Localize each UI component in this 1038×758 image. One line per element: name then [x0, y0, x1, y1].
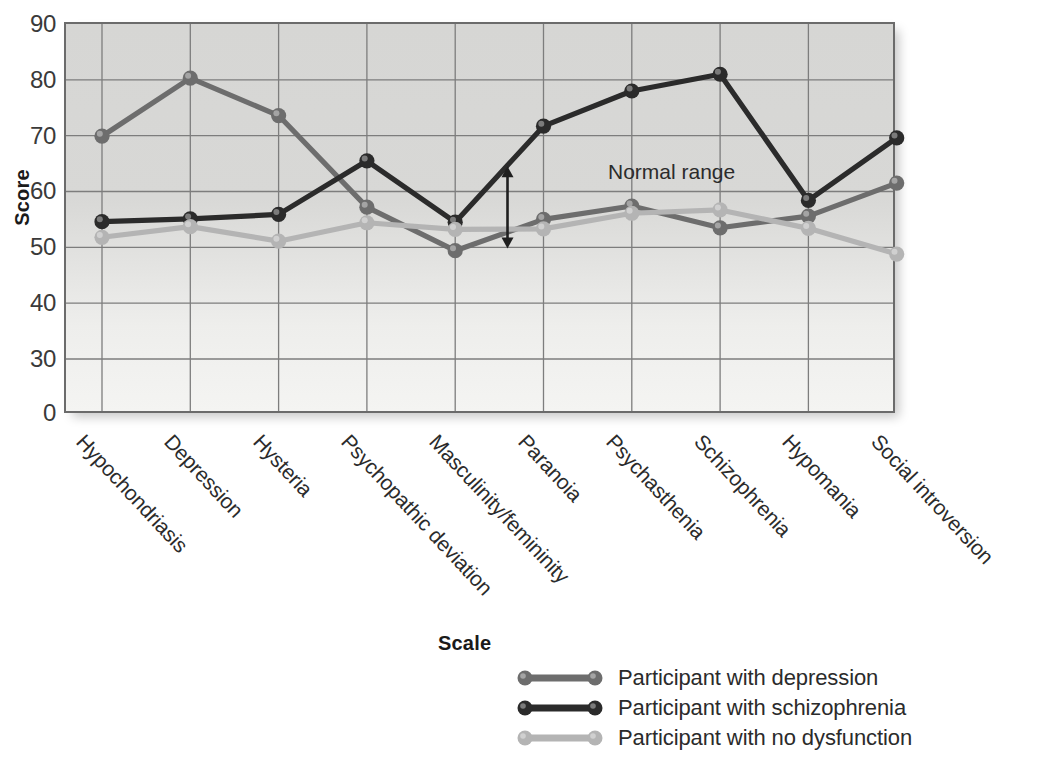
data-point-2-8	[801, 221, 816, 236]
data-point-2-3	[359, 215, 374, 230]
x-axis-tick-3: Psychopathic deviation	[336, 430, 497, 600]
legend-swatch-0	[516, 667, 604, 689]
plot-area	[64, 22, 895, 413]
data-point-highlight	[450, 224, 456, 230]
data-point-marker	[889, 176, 904, 191]
data-point-highlight	[892, 132, 898, 138]
x-axis-tick-6: Psychasthenia	[601, 430, 710, 544]
data-point-highlight	[450, 245, 456, 251]
data-point-marker	[624, 83, 639, 98]
data-point-highlight	[715, 69, 721, 75]
chart-figure: Score 030405060708090 HypochondriasisDep…	[0, 0, 1038, 758]
y-axis-tick-40: 40	[4, 289, 56, 317]
data-point-highlight	[627, 208, 633, 214]
data-point-highlight	[803, 211, 809, 217]
y-axis-tick-60: 60	[4, 177, 56, 205]
x-axis-tick-2: Hysteria	[248, 430, 317, 502]
data-point-highlight	[892, 178, 898, 184]
data-point-highlight	[273, 236, 279, 242]
x-axis-tick-9: Social introversion	[866, 430, 998, 569]
legend-swatch-2	[516, 727, 604, 749]
data-point-marker	[183, 71, 198, 86]
data-point-2-9	[889, 246, 904, 261]
series-line-1	[102, 74, 897, 222]
y-axis-tick-70: 70	[4, 122, 56, 150]
data-point-marker	[448, 243, 463, 258]
data-point-highlight	[273, 110, 279, 116]
data-point-1-0	[94, 214, 109, 229]
data-point-2-0	[94, 230, 109, 245]
data-point-marker	[359, 153, 374, 168]
data-point-marker	[183, 219, 198, 234]
data-point-marker	[624, 206, 639, 221]
data-point-marker	[359, 215, 374, 230]
data-point-2-4	[448, 222, 463, 237]
chart-canvas	[66, 24, 893, 411]
y-axis-tick-labels: 030405060708090	[0, 0, 56, 758]
data-point-highlight	[185, 73, 191, 79]
legend-item-1[interactable]: Participant with schizophrenia	[438, 693, 998, 723]
normal-range-annotation-label: Normal range	[608, 160, 735, 184]
data-point-1-3	[359, 153, 374, 168]
data-point-highlight	[273, 209, 279, 215]
data-point-marker	[94, 214, 109, 229]
data-point-1-9	[889, 130, 904, 145]
x-axis-tick-8: Hypomania	[778, 430, 867, 523]
data-point-highlight	[362, 155, 368, 161]
data-point-highlight	[803, 223, 809, 229]
data-point-0-0	[94, 129, 109, 144]
chart-legend: Scale Participant with depressionPartici…	[438, 632, 998, 753]
data-point-marker	[448, 222, 463, 237]
data-point-1-5	[536, 119, 551, 134]
data-point-highlight	[362, 217, 368, 223]
data-point-2-1	[183, 219, 198, 234]
data-point-0-1	[183, 71, 198, 86]
data-point-highlight	[185, 221, 191, 227]
data-point-marker	[713, 67, 728, 82]
data-point-highlight	[715, 222, 721, 228]
legend-item-2[interactable]: Participant with no dysfunction	[438, 723, 998, 753]
y-axis-tick-90: 90	[4, 10, 56, 38]
data-point-marker	[271, 234, 286, 249]
data-point-highlight	[715, 205, 721, 211]
data-point-0-3	[359, 200, 374, 215]
data-point-2-5	[536, 221, 551, 236]
data-point-0-9	[889, 176, 904, 191]
data-point-highlight	[892, 249, 898, 255]
data-point-marker	[801, 193, 816, 208]
data-point-1-8	[801, 193, 816, 208]
data-point-marker	[713, 202, 728, 217]
data-point-highlight	[185, 213, 191, 219]
data-point-marker	[713, 220, 728, 235]
data-point-1-2	[271, 207, 286, 222]
legend-label-2: Participant with no dysfunction	[618, 725, 912, 751]
data-point-marker	[536, 221, 551, 236]
legend-swatch-1	[516, 697, 604, 719]
x-axis-tick-5: Paranoia	[513, 430, 587, 507]
legend-rows: Participant with depressionParticipant w…	[438, 663, 998, 753]
data-point-0-7	[713, 220, 728, 235]
data-point-highlight	[538, 121, 544, 127]
data-point-0-2	[271, 108, 286, 123]
data-point-2-6	[624, 206, 639, 221]
data-point-marker	[536, 119, 551, 134]
legend-item-0[interactable]: Participant with depression	[438, 663, 998, 693]
data-point-marker	[271, 108, 286, 123]
series-line-0	[102, 78, 897, 251]
data-point-highlight	[538, 224, 544, 230]
x-axis-tick-1: Depression	[160, 430, 249, 523]
data-point-highlight	[97, 131, 103, 137]
data-point-marker	[359, 200, 374, 215]
data-point-marker	[94, 129, 109, 144]
legend-label-0: Participant with depression	[618, 665, 878, 691]
x-axis-tick-0: Hypochondriasis	[71, 430, 192, 558]
data-point-marker	[801, 221, 816, 236]
data-point-1-7	[713, 67, 728, 82]
data-point-2-7	[713, 202, 728, 217]
y-axis-tick-80: 80	[4, 66, 56, 94]
data-point-highlight	[362, 202, 368, 208]
data-point-highlight	[627, 86, 633, 92]
data-point-marker	[889, 130, 904, 145]
y-axis-tick-50: 50	[4, 233, 56, 261]
data-point-highlight	[538, 214, 544, 220]
